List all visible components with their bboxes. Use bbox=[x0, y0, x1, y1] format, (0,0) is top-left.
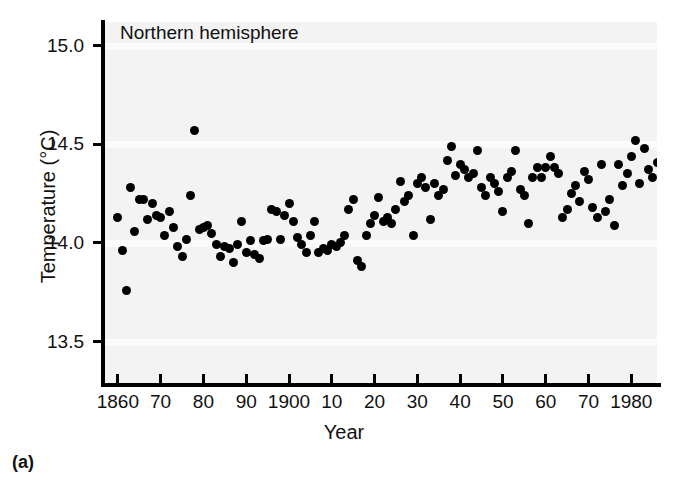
y-tick-mark bbox=[93, 340, 103, 343]
data-point bbox=[648, 173, 657, 182]
background-band bbox=[105, 141, 657, 148]
data-point bbox=[280, 211, 289, 220]
data-point bbox=[610, 221, 619, 230]
panel-label: (a) bbox=[12, 452, 34, 473]
y-tick-mark bbox=[93, 241, 103, 244]
data-point bbox=[302, 248, 311, 257]
data-point bbox=[430, 179, 439, 188]
data-point bbox=[340, 231, 349, 240]
data-point bbox=[614, 160, 623, 169]
y-axis-title: Temperature (°C) bbox=[37, 47, 60, 367]
data-point bbox=[469, 169, 478, 178]
data-point bbox=[165, 207, 174, 216]
data-point bbox=[285, 199, 294, 208]
x-tick-label: 70 bbox=[150, 391, 171, 412]
data-point bbox=[584, 175, 593, 184]
x-tick-mark bbox=[501, 374, 504, 384]
data-point bbox=[396, 177, 405, 186]
data-point bbox=[541, 163, 550, 172]
x-tick-label: 40 bbox=[450, 391, 471, 412]
data-point bbox=[575, 197, 584, 206]
data-point bbox=[122, 286, 131, 295]
x-tick-label: 90 bbox=[236, 391, 257, 412]
x-axis-line bbox=[101, 383, 661, 387]
chart-title: Northern hemisphere bbox=[120, 22, 298, 43]
data-point bbox=[156, 213, 165, 222]
x-tick-mark bbox=[330, 374, 333, 384]
data-point bbox=[426, 215, 435, 224]
data-point bbox=[409, 231, 418, 240]
data-point bbox=[507, 167, 516, 176]
data-point bbox=[139, 195, 148, 204]
x-tick-mark bbox=[245, 374, 248, 384]
data-point bbox=[635, 179, 644, 188]
data-point bbox=[417, 173, 426, 182]
data-point bbox=[160, 231, 169, 240]
x-tick-mark bbox=[630, 374, 633, 384]
data-point bbox=[126, 183, 135, 192]
data-point bbox=[439, 185, 448, 194]
data-point bbox=[113, 213, 122, 222]
y-tick-mark bbox=[93, 44, 103, 47]
x-tick-mark bbox=[202, 374, 205, 384]
background-band bbox=[105, 339, 657, 346]
data-point bbox=[563, 205, 572, 214]
y-tick-label: 14.5 bbox=[28, 134, 84, 153]
y-axis-line bbox=[101, 20, 105, 387]
data-point bbox=[653, 158, 658, 167]
data-point bbox=[182, 235, 191, 244]
y-tick-label: 14.0 bbox=[28, 233, 84, 252]
data-point bbox=[306, 231, 315, 240]
data-point bbox=[623, 169, 632, 178]
data-point bbox=[118, 246, 127, 255]
x-axis-title: Year bbox=[0, 421, 688, 444]
data-point bbox=[357, 262, 366, 271]
x-tick-mark bbox=[416, 374, 419, 384]
x-tick-mark bbox=[116, 374, 119, 384]
x-tick-mark bbox=[288, 374, 291, 384]
data-point bbox=[618, 181, 627, 190]
data-point bbox=[233, 240, 242, 249]
data-point bbox=[520, 191, 529, 200]
data-point bbox=[524, 219, 533, 228]
data-point bbox=[207, 229, 216, 238]
data-point bbox=[391, 205, 400, 214]
data-point bbox=[237, 217, 246, 226]
x-tick-label: 50 bbox=[492, 391, 513, 412]
figure-panel-a: Temperature (°C) 13.514.014.515.0 186070… bbox=[0, 0, 688, 492]
data-point bbox=[178, 252, 187, 261]
data-point bbox=[387, 219, 396, 228]
data-point bbox=[173, 242, 182, 251]
x-tick-label: 30 bbox=[407, 391, 428, 412]
data-point bbox=[451, 171, 460, 180]
plot-area bbox=[105, 22, 657, 385]
data-point bbox=[229, 258, 238, 267]
data-point bbox=[130, 227, 139, 236]
data-point bbox=[640, 144, 649, 153]
data-point bbox=[473, 146, 482, 155]
data-point bbox=[404, 191, 413, 200]
data-point bbox=[255, 254, 264, 263]
x-tick-label: 1980 bbox=[610, 391, 652, 412]
x-tick-mark bbox=[587, 374, 590, 384]
data-point bbox=[481, 191, 490, 200]
x-tick-mark bbox=[544, 374, 547, 384]
data-point bbox=[190, 126, 199, 135]
data-point bbox=[605, 195, 614, 204]
data-point bbox=[310, 217, 319, 226]
data-point bbox=[216, 252, 225, 261]
data-point bbox=[537, 173, 546, 182]
data-point bbox=[597, 160, 606, 169]
data-point bbox=[546, 152, 555, 161]
data-point bbox=[344, 205, 353, 214]
x-tick-label: 1900 bbox=[268, 391, 310, 412]
data-point bbox=[349, 195, 358, 204]
data-point bbox=[447, 142, 456, 151]
data-point bbox=[143, 215, 152, 224]
x-tick-mark bbox=[159, 374, 162, 384]
data-point bbox=[498, 207, 507, 216]
data-point bbox=[558, 213, 567, 222]
data-point bbox=[593, 213, 602, 222]
data-point bbox=[588, 203, 597, 212]
data-point bbox=[370, 211, 379, 220]
